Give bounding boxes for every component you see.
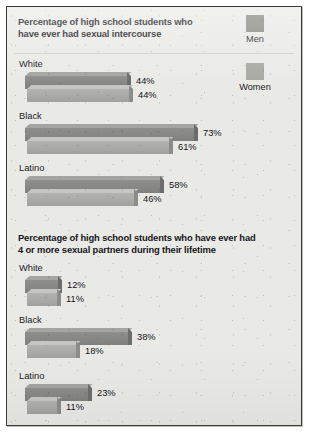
women-swatch-icon bbox=[246, 63, 264, 80]
bar-white-women bbox=[27, 293, 57, 306]
bar-white-women bbox=[27, 89, 129, 102]
legend-entry-women: Women bbox=[213, 63, 297, 93]
value-white-women: 11% bbox=[66, 294, 84, 305]
group-label-latino: Latino bbox=[19, 371, 44, 382]
bar-black-women bbox=[27, 345, 76, 358]
group-label-black: Black bbox=[19, 315, 42, 326]
group-label-latino: Latino bbox=[19, 163, 44, 174]
group-label-white: White bbox=[19, 59, 43, 70]
value-white-men: 12% bbox=[67, 280, 86, 291]
legend-entry-men: Men bbox=[213, 15, 297, 45]
bar-latino-women bbox=[27, 401, 57, 414]
value-black-men: 73% bbox=[203, 128, 222, 139]
legend-label-women: Women bbox=[213, 82, 297, 93]
chart-panel-intercourse: Percentage of high school students who h… bbox=[7, 7, 301, 223]
chart-1-title: Percentage of high school students who h… bbox=[18, 16, 214, 41]
value-black-women: 18% bbox=[85, 346, 104, 357]
legend: Men Women bbox=[213, 11, 297, 111]
value-white-women: 44% bbox=[138, 90, 157, 101]
group-label-white: White bbox=[19, 263, 43, 274]
value-black-men: 38% bbox=[137, 332, 156, 343]
value-latino-men: 58% bbox=[169, 180, 188, 191]
men-swatch-icon bbox=[246, 15, 264, 32]
value-black-women: 61% bbox=[178, 142, 197, 153]
value-latino-women: 11% bbox=[66, 402, 84, 413]
legend-label-men: Men bbox=[213, 34, 297, 45]
value-latino-women: 46% bbox=[143, 194, 162, 205]
bar-black-women bbox=[27, 141, 169, 154]
group-label-black: Black bbox=[19, 111, 42, 122]
chart-panel-partners: Percentage of high school students who h… bbox=[7, 223, 301, 426]
bar-latino-women bbox=[27, 193, 134, 206]
value-white-men: 44% bbox=[136, 76, 155, 87]
value-latino-men: 23% bbox=[97, 388, 116, 399]
figure-frame: Percentage of high school students who h… bbox=[6, 6, 302, 426]
chart-2-title: Percentage of high school students who h… bbox=[18, 232, 280, 257]
